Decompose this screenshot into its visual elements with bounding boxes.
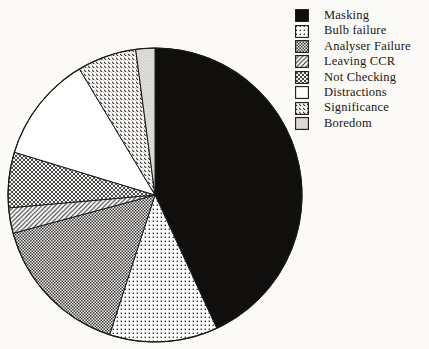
legend-swatch-dots-fine-gray <box>295 117 309 130</box>
legend-label: Boredom <box>324 116 372 131</box>
legend-item: Not Checking <box>295 70 411 85</box>
legend-item: Masking <box>295 8 411 23</box>
legend-item: Distractions <box>295 85 411 100</box>
legend: MaskingBulb failureAnalyser FailureLeavi… <box>295 8 411 131</box>
legend-item: Analyser Failure <box>295 39 411 54</box>
legend-label: Leaving CCR <box>324 54 395 69</box>
legend-item: Leaving CCR <box>295 54 411 69</box>
legend-swatch-checker-dense <box>295 40 309 53</box>
legend-label: Analyser Failure <box>324 39 411 54</box>
legend-swatch-plain-white <box>295 86 309 99</box>
legend-swatch-crosshatch <box>295 71 309 84</box>
legend-swatch-solid-black <box>295 9 309 22</box>
legend-label: Bulb failure <box>324 23 386 38</box>
legend-swatch-hatch-forward <box>295 55 309 68</box>
legend-label: Not Checking <box>324 70 396 85</box>
legend-swatch-dots-light <box>295 25 309 38</box>
legend-swatch-hatch-back <box>295 102 309 115</box>
legend-label: Significance <box>324 100 389 115</box>
legend-item: Boredom <box>295 116 411 131</box>
legend-label: Masking <box>324 8 369 23</box>
legend-item: Bulb failure <box>295 23 411 38</box>
pie-chart-figure: MaskingBulb failureAnalyser FailureLeavi… <box>0 0 429 349</box>
legend-item: Significance <box>295 100 411 115</box>
legend-label: Distractions <box>324 85 387 100</box>
